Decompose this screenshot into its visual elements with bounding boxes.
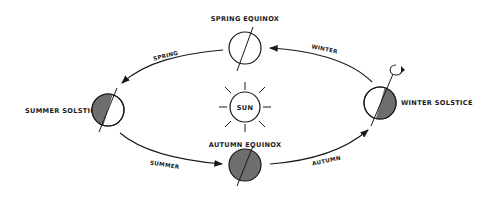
position-label-autumn-equinox: AUTUMN EQUINOX	[209, 141, 282, 149]
orbit-arrow-summer	[120, 133, 222, 164]
seasons-diagram: SPRING SUMMER AUTUMN WINTER SUN SPRING E…	[0, 0, 485, 199]
earth-summer-solstice: SUMMER SOLSTICE	[25, 88, 124, 132]
sun-label: SUN	[237, 104, 254, 112]
rotation-arrow-icon	[390, 65, 405, 75]
orbit-arrow-winter	[270, 48, 372, 82]
earth-spring-equinox: SPRING EQUINOX	[211, 15, 279, 71]
sun: SUN	[219, 82, 271, 132]
position-label-winter-solstice: WINTER SOLSTICE	[401, 99, 473, 107]
earth-winter-solstice: WINTER SOLSTICE	[364, 65, 473, 126]
season-label-summer: SUMMER	[150, 159, 181, 170]
position-label-spring-equinox: SPRING EQUINOX	[211, 15, 279, 23]
season-label-winter: WINTER	[311, 43, 339, 54]
position-label-summer-solstice: SUMMER SOLSTICE	[25, 107, 100, 115]
